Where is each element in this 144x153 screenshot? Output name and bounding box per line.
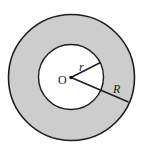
center-label: O [58, 73, 67, 87]
inner-radius-label: r [79, 60, 84, 74]
annulus-diagram: O r R [0, 0, 144, 153]
outer-radius-label: R [112, 82, 121, 96]
center-point [69, 76, 73, 80]
